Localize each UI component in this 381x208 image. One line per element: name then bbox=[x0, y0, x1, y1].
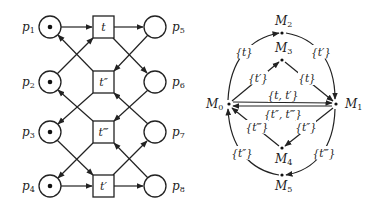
arc-t2-p1 bbox=[58, 35, 93, 71]
place-label: p5 bbox=[172, 20, 185, 35]
arc-p2-t bbox=[57, 38, 93, 74]
arc-p3-t1 bbox=[57, 140, 93, 175]
transition-t-triple-prime[interactable]: t‴ bbox=[93, 121, 114, 143]
place-label: p8 bbox=[172, 179, 185, 194]
node-label: M2 bbox=[274, 14, 292, 29]
node-label: M0 bbox=[205, 97, 223, 112]
arc-p8-t3 bbox=[114, 143, 148, 178]
transition-t[interactable]: t bbox=[93, 16, 114, 38]
edge-label: {t, t′} bbox=[268, 89, 299, 102]
arc-t-p6 bbox=[113, 38, 147, 73]
token-icon bbox=[48, 25, 53, 30]
arc-t2-p3 bbox=[58, 93, 93, 124]
transition-label: t″ bbox=[99, 76, 108, 89]
arc-t1-p7 bbox=[113, 141, 147, 175]
edge-label: {t″} bbox=[231, 147, 253, 160]
place-label: p2 bbox=[22, 75, 35, 90]
transition-label: t bbox=[101, 21, 106, 34]
edge-label: {t″} bbox=[295, 121, 317, 134]
edge-label: {t‴} bbox=[245, 121, 268, 134]
edge-label: {t} bbox=[235, 46, 253, 59]
node-label: M5 bbox=[274, 179, 292, 194]
node-label: M3 bbox=[274, 41, 292, 56]
place-p7[interactable]: p7 bbox=[144, 121, 185, 143]
arc-p7-t2 bbox=[114, 93, 148, 124]
edge-label: {t′} bbox=[248, 72, 268, 85]
place-label: p7 bbox=[172, 125, 185, 140]
place-p1[interactable]: p1 bbox=[22, 16, 61, 38]
place-label: p6 bbox=[172, 75, 185, 90]
transition-t-prime[interactable]: t′ bbox=[93, 175, 114, 197]
node-M0[interactable]: M0 bbox=[205, 97, 231, 112]
reachability-nodes: M0 M1 M2 M3 M4 M5 bbox=[205, 14, 362, 194]
arc-t3-p2 bbox=[58, 90, 93, 121]
place-p2[interactable]: p2 bbox=[22, 71, 61, 93]
place-label: p4 bbox=[22, 179, 35, 194]
node-M2[interactable]: M2 bbox=[274, 14, 292, 35]
transition-label: t‴ bbox=[98, 126, 108, 139]
node-label: M4 bbox=[274, 152, 292, 167]
edge-M0-M1 bbox=[233, 102, 332, 103]
place-label: p3 bbox=[22, 125, 35, 140]
transition-t-double-prime[interactable]: t″ bbox=[93, 71, 114, 93]
edge-label: {t‴} bbox=[312, 147, 335, 160]
place-p6[interactable]: p6 bbox=[144, 71, 185, 93]
node-M3[interactable]: M3 bbox=[274, 41, 292, 62]
transition-label: t′ bbox=[100, 180, 107, 193]
token-icon bbox=[48, 130, 53, 135]
arc-p6-t3 bbox=[114, 90, 148, 121]
node-label: M1 bbox=[344, 97, 362, 112]
place-label: p1 bbox=[22, 20, 35, 35]
edge-label: {t} bbox=[298, 72, 316, 85]
node-M4[interactable]: M4 bbox=[274, 146, 292, 167]
petri-net-transitions: t t″ t‴ t′ bbox=[93, 16, 114, 197]
place-p5[interactable]: p5 bbox=[144, 16, 185, 38]
diagram-canvas: p1 p2 p3 p4 p5 p6 p7 bbox=[0, 0, 381, 208]
edge-label: {t′} bbox=[311, 46, 331, 59]
place-p4[interactable]: p4 bbox=[22, 175, 61, 197]
arc-p5-t2 bbox=[114, 35, 148, 71]
arc-t3-p4 bbox=[58, 143, 93, 178]
petri-net-places: p1 p2 p3 p4 p5 p6 p7 bbox=[22, 16, 185, 197]
edge-label: {t″, t‴} bbox=[264, 108, 302, 121]
place-p8[interactable]: p8 bbox=[144, 175, 185, 197]
petri-net-arcs bbox=[57, 27, 148, 186]
node-M5[interactable]: M5 bbox=[274, 173, 292, 194]
place-p3[interactable]: p3 bbox=[22, 121, 61, 143]
token-icon bbox=[48, 184, 53, 189]
node-M1[interactable]: M1 bbox=[334, 97, 362, 112]
token-icon bbox=[48, 80, 53, 85]
